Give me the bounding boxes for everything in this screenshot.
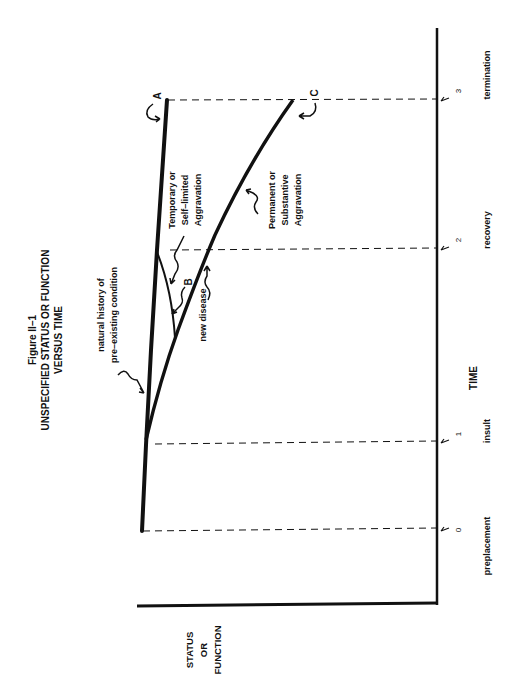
- tick-t3: 3 termination: [441, 50, 492, 101]
- tick-t1: 1 insult: [441, 419, 492, 443]
- figure-canvas: Figure II–1 UNSPECIFIED STATUS OR FUNCTI…: [0, 0, 525, 692]
- natural-history-line2: pre–existing condition: [109, 267, 119, 363]
- figure-title-line1: UNSPECIFIED STATUS OR FUNCTION: [40, 250, 51, 431]
- tick-t0: 0 preplacement: [441, 517, 492, 576]
- y-axis-label: STATUS OR FUNCTION: [184, 625, 223, 674]
- tick-arrow-icon: [441, 527, 449, 531]
- a-annotation: A: [147, 92, 163, 122]
- tick-t1-event: insult: [482, 419, 492, 443]
- marker-t0: [143, 528, 437, 531]
- marker-t1: [155, 441, 437, 444]
- tick-t1-sub: 1: [454, 431, 463, 436]
- tick-t0-event: preplacement: [482, 517, 492, 576]
- temporary-aggravation-annotation: Temporary or Self–limited Aggravation: [167, 171, 203, 284]
- y-label-line2: OR: [198, 643, 209, 657]
- x-axis-label: TIME: [468, 366, 479, 390]
- status-axis: [137, 603, 438, 606]
- squiggle-arrow-icon: [246, 189, 258, 214]
- y-label-line1: STATUS: [184, 632, 195, 669]
- curve-c-new-disease: [146, 100, 293, 440]
- curved-arrow-icon: [299, 103, 316, 119]
- curve-a-natural-history: [142, 100, 167, 531]
- time-markers: [143, 99, 437, 531]
- tick-arrow-icon: [441, 246, 449, 250]
- marker-t3: [168, 99, 437, 100]
- label-b: B: [183, 278, 194, 285]
- natural-history-line1: natural history of: [96, 277, 106, 352]
- label-c: C: [309, 89, 320, 96]
- temporary-line1: Temporary or: [167, 171, 177, 229]
- tick-arrow-icon: [441, 97, 449, 101]
- tick-arrow-icon: [441, 439, 449, 443]
- tick-t3-sub: 3: [454, 88, 463, 93]
- tick-t2: 2 recovery: [441, 211, 492, 250]
- permanent-aggravation-annotation: Permanent or Substantive Aggravation: [246, 171, 303, 230]
- squiggle-arrow-icon: [170, 236, 184, 284]
- curved-arrow-icon: [147, 104, 160, 122]
- figure-title-line2: VERSUS TIME: [53, 306, 64, 374]
- natural-history-annotation: natural history of pre–existing conditio…: [96, 267, 144, 393]
- permanent-line2: Substantive: [280, 174, 290, 225]
- curve-b-temporary: [157, 252, 175, 338]
- new-disease-annotation: new disease: [198, 266, 210, 342]
- figure-title: Figure II–1 UNSPECIFIED STATUS OR FUNCTI…: [27, 250, 64, 431]
- tick-t2-event: recovery: [482, 211, 492, 249]
- tick-t2-sub: 2: [454, 237, 463, 242]
- y-label-line3: FUNCTION: [212, 625, 223, 674]
- temporary-line3: Aggravation: [193, 174, 203, 227]
- new-disease-label: new disease: [198, 288, 208, 341]
- tick-t0-sub: 0: [454, 527, 463, 532]
- c-annotation: C: [299, 89, 320, 119]
- squiggle-arrow-icon: [172, 287, 185, 314]
- squiggle-arrow-icon: [118, 371, 144, 393]
- tick-t3-event: termination: [482, 50, 492, 99]
- figure-number: Figure II–1: [27, 315, 38, 365]
- permanent-line1: Permanent or: [267, 171, 277, 230]
- label-a: A: [152, 92, 163, 99]
- permanent-line3: Aggravation: [293, 174, 303, 227]
- temporary-line2: Self–limited: [180, 175, 190, 226]
